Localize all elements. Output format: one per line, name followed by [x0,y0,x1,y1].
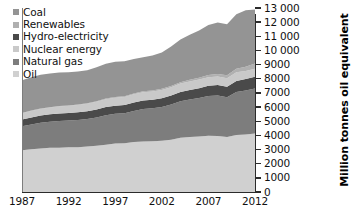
y-tick-mark [255,121,261,122]
legend-label-nuclear-energy: Nuclear energy [23,44,102,55]
y-tick-label: 4000 [264,130,290,141]
x-tick-label: 1997 [102,196,128,207]
y-tick-label: 2000 [264,158,290,169]
y-axis: 010002000300040005000600070008000900010 … [255,8,263,192]
y-tick-label: 8000 [264,73,290,84]
y-tick-label: 12 000 [264,17,300,28]
y-tick-mark [255,135,261,136]
x-tick-label: 2007 [195,196,221,207]
y-tick-label: 5000 [264,116,290,127]
legend-swatch-icon-oil [13,71,19,77]
y-tick-label: 1000 [264,172,290,183]
y-tick-mark [255,7,261,8]
legend-label-oil: Oil [23,69,37,80]
y-tick-label: 9000 [264,59,290,70]
x-tick-label: 2012 [242,196,268,207]
y-tick-mark [255,64,261,65]
y-tick-mark [255,177,261,178]
y-tick-label: 7000 [264,87,290,98]
y-tick-mark [255,50,261,51]
y-tick-label: 6000 [264,102,290,113]
y-tick-mark [255,191,261,192]
legend-item-oil: Oil [13,68,109,80]
legend-swatch-icon-renewables [13,22,19,28]
y-axis-title: Million tonnes oil equivalent [333,8,355,192]
legend-item-coal: Coal [13,6,109,18]
y-axis-line [255,14,256,192]
legend-item-nuclear-energy: Nuclear energy [13,43,109,55]
legend-label-hydro-electricity: Hydro-electricity [23,31,109,42]
y-tick-label: 3000 [264,144,290,155]
y-tick-label: 13 000 [264,3,300,14]
y-tick-mark [255,36,261,37]
x-tick-label: 1992 [56,196,82,207]
legend-swatch-icon-nuclear-energy [13,46,19,52]
y-tick-label: 10 000 [264,45,300,56]
legend-item-natural-gas: Natural gas [13,56,109,68]
y-tick-mark [255,163,261,164]
chart-legend: Coal Renewables Hydro-electricity Nuclea… [13,6,109,80]
legend-label-natural-gas: Natural gas [23,56,83,67]
legend-swatch-icon-natural-gas [13,59,19,65]
y-tick-mark [255,21,261,22]
x-tick-label: 1987 [9,196,35,207]
y-tick-label: 11 000 [264,31,300,42]
legend-swatch-icon-coal [13,9,19,15]
y-tick-mark [255,78,261,79]
legend-label-renewables: Renewables [23,19,85,30]
legend-item-renewables: Renewables [13,18,109,30]
legend-swatch-icon-hydro-electricity [13,34,19,40]
y-tick-mark [255,149,261,150]
x-axis-line [22,192,256,193]
x-tick-label: 2002 [149,196,175,207]
legend-item-hydro-electricity: Hydro-electricity [13,31,109,43]
y-tick-mark [255,92,261,93]
legend-label-coal: Coal [23,7,46,18]
y-tick-mark [255,106,261,107]
